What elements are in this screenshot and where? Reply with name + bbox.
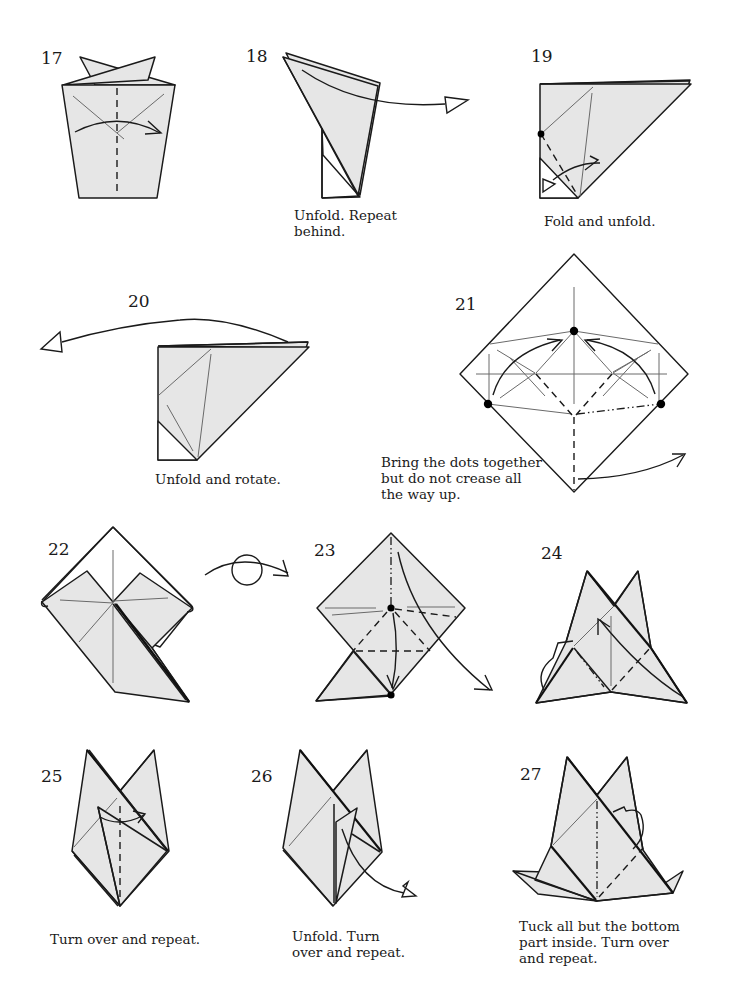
step-27-diagram bbox=[0, 0, 730, 991]
model-body bbox=[535, 757, 673, 901]
step-caption: Tuck all but the bottom part inside. Tur… bbox=[519, 918, 680, 966]
